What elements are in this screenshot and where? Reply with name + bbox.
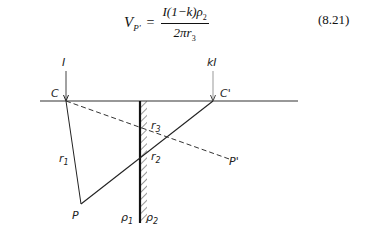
label-rho1: ρ1 <box>121 211 133 226</box>
label-C-prime: C' <box>220 87 231 100</box>
label-I: I <box>62 56 65 69</box>
label-r1: r1 <box>59 152 69 167</box>
label-kI: kI <box>207 56 217 69</box>
r1-line <box>66 101 81 204</box>
label-r3: r3 <box>151 119 161 134</box>
label-P-prime: P' <box>229 155 239 168</box>
label-P: P <box>72 209 79 222</box>
label-r2: r2 <box>151 150 161 165</box>
label-rho2: ρ2 <box>146 211 158 226</box>
image-method-diagram: I kI C C' r1 r2 r3 P P' ρ1 ρ2 <box>0 0 366 234</box>
label-C: C <box>51 87 59 100</box>
